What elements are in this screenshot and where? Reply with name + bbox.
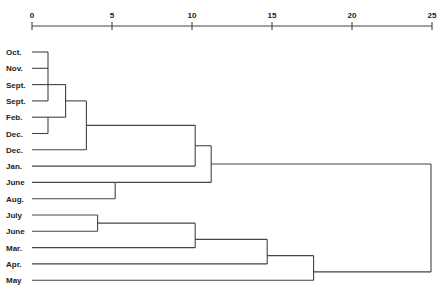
dendrogram-plot bbox=[0, 0, 442, 296]
